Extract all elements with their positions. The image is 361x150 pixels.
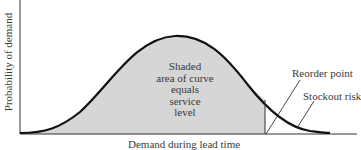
shaded-area-label-line: equals [140, 84, 230, 96]
shaded-area-label: Shaded area of curve equals service leve… [140, 61, 230, 119]
stockout-risk-pointer [297, 101, 314, 128]
y-axis-label: Probability of demand [2, 2, 14, 122]
x-axis-label: Demand during lead time [128, 138, 240, 150]
shaded-area-label-line: level [140, 107, 230, 119]
reorder-point-label: Reorder point [292, 67, 353, 79]
shaded-area-label-line: Shaded [140, 61, 230, 73]
stockout-risk-label: Stockout risk [303, 90, 361, 102]
